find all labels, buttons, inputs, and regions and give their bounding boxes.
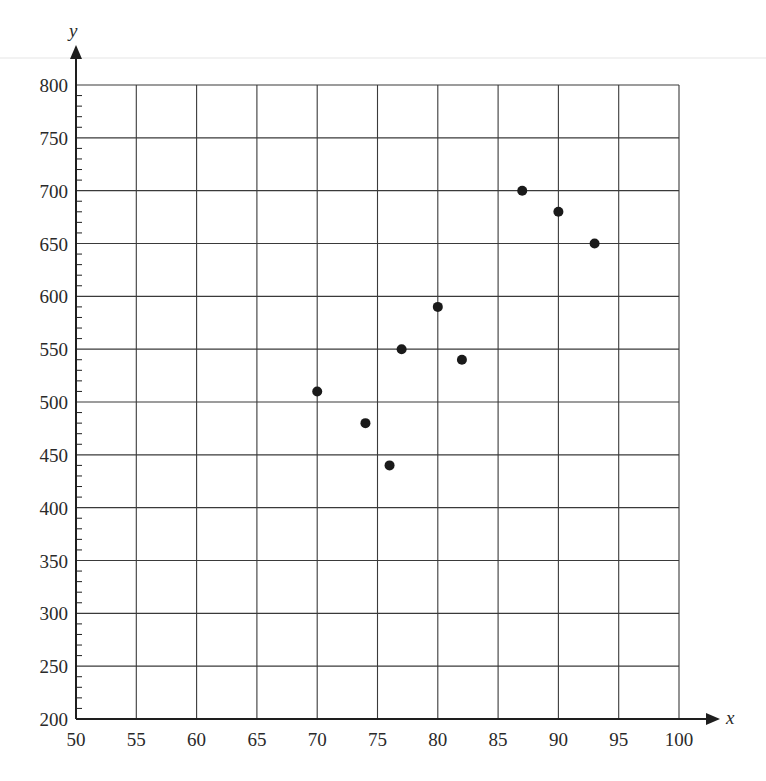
data-point xyxy=(590,239,600,249)
x-axis-label: x xyxy=(725,707,735,728)
x-tick-label: 75 xyxy=(368,729,387,750)
y-tick-label: 350 xyxy=(40,551,69,572)
x-tick-label: 50 xyxy=(67,729,86,750)
scatter-chart: 50556065707580859095100 2002503003504004… xyxy=(0,0,766,781)
y-tick-label: 550 xyxy=(40,339,69,360)
y-tick-label: 400 xyxy=(40,498,69,519)
y-tick-label: 250 xyxy=(40,656,69,677)
x-tick-labels: 50556065707580859095100 xyxy=(67,729,694,750)
x-tick-label: 80 xyxy=(428,729,447,750)
y-tick-label: 300 xyxy=(40,603,69,624)
x-tick-label: 55 xyxy=(127,729,146,750)
y-tick-label: 800 xyxy=(40,75,69,96)
x-tick-label: 100 xyxy=(665,729,694,750)
data-point xyxy=(397,344,407,354)
data-point xyxy=(553,207,563,217)
data-point xyxy=(457,355,467,365)
grid xyxy=(76,85,679,719)
y-tick-label: 450 xyxy=(40,445,69,466)
y-tick-label: 750 xyxy=(40,128,69,149)
y-axis-label: y xyxy=(67,20,78,41)
y-tick-label: 700 xyxy=(40,181,69,202)
x-tick-label: 70 xyxy=(308,729,327,750)
data-point xyxy=(385,460,395,470)
x-tick-label: 60 xyxy=(187,729,206,750)
y-tick-label: 650 xyxy=(40,234,69,255)
data-point xyxy=(517,186,527,196)
x-tick-label: 65 xyxy=(247,729,266,750)
x-tick-label: 85 xyxy=(489,729,508,750)
y-tick-labels: 200250300350400450500550600650700750800 xyxy=(40,75,69,730)
x-tick-label: 90 xyxy=(549,729,568,750)
chart-canvas: 50556065707580859095100 2002503003504004… xyxy=(0,0,766,781)
y-tick-label: 500 xyxy=(40,392,69,413)
data-points xyxy=(312,186,599,471)
x-axis-arrow-icon xyxy=(706,713,720,725)
y-axis-arrow-icon xyxy=(70,45,82,59)
x-tick-label: 95 xyxy=(609,729,628,750)
data-point xyxy=(360,418,370,428)
data-point xyxy=(433,302,443,312)
data-point xyxy=(312,386,322,396)
y-tick-label: 200 xyxy=(40,709,69,730)
y-tick-label: 600 xyxy=(40,286,69,307)
axes xyxy=(70,45,720,725)
